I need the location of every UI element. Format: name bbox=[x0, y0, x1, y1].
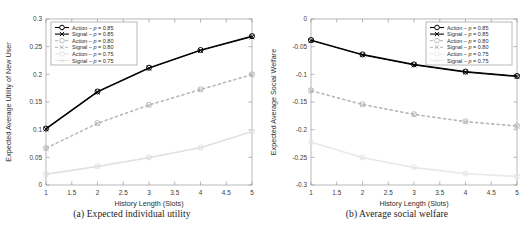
legend-label: Action – p = 0.75 bbox=[72, 51, 113, 57]
x-tick-label: 1 bbox=[44, 189, 48, 196]
y-tick-label: -0.1 bbox=[296, 71, 307, 78]
y-tick-label: 0.15 bbox=[30, 98, 43, 105]
x-tick-label: 2.5 bbox=[119, 189, 128, 196]
y-tick-label: 0.3 bbox=[33, 15, 42, 22]
legend-marker-circle bbox=[435, 38, 440, 43]
figure-two-panel-chart: 11.522.533.544.5500.050.10.150.20.250.3H… bbox=[0, 0, 529, 239]
x-tick-label: 3 bbox=[412, 189, 416, 196]
legend-label: Action – p = 0.80 bbox=[72, 38, 113, 44]
y-tick-label: 0.1 bbox=[33, 126, 42, 133]
x-tick-label: 3.5 bbox=[170, 189, 179, 196]
x-tick-label: 3 bbox=[147, 189, 151, 196]
panel-a: 11.522.533.544.5500.050.10.150.20.250.3H… bbox=[0, 0, 264, 239]
y-axis-title: Expected Average Social Welfare bbox=[269, 49, 278, 155]
legend-label: Action – p = 0.85 bbox=[447, 25, 488, 31]
series-line bbox=[311, 91, 517, 126]
x-tick-label: 2 bbox=[361, 189, 365, 196]
legend-label: Action – p = 0.85 bbox=[72, 25, 113, 31]
x-tick-label: 4.5 bbox=[222, 189, 231, 196]
y-tick-label: 0.2 bbox=[33, 71, 42, 78]
panel-b: 11.522.533.544.550-0.05-0.1-0.15-0.2-0.2… bbox=[265, 0, 529, 239]
x-axis-title: History Length (Slots) bbox=[379, 199, 448, 208]
legend-marker-circle bbox=[60, 25, 65, 30]
series-line bbox=[46, 132, 252, 175]
x-tick-label: 5 bbox=[250, 189, 254, 196]
caption-a: (a) Expected individual utility bbox=[0, 209, 264, 219]
y-tick-label: -0.2 bbox=[296, 126, 307, 133]
x-tick-label: 1.5 bbox=[67, 189, 76, 196]
plot-a: 11.522.533.544.5500.050.10.150.20.250.3H… bbox=[0, 0, 264, 210]
y-tick-label: -0.15 bbox=[292, 98, 307, 105]
series-line bbox=[46, 131, 252, 174]
x-axis-title: History Length (Slots) bbox=[114, 199, 183, 208]
legend-label: Signal – p = 0.85 bbox=[447, 31, 488, 37]
x-tick-label: 5 bbox=[515, 189, 519, 196]
x-tick-label: 2 bbox=[96, 189, 100, 196]
legend-label: Signal – p = 0.85 bbox=[72, 31, 113, 37]
y-tick-label: 0 bbox=[303, 15, 307, 22]
legend-label: Action – p = 0.75 bbox=[447, 51, 488, 57]
series-line bbox=[311, 142, 517, 176]
caption-b: (b) Average social welfare bbox=[265, 209, 529, 219]
legend-label: Signal – p = 0.75 bbox=[72, 58, 113, 64]
y-tick-label: -0.3 bbox=[296, 181, 307, 188]
y-tick-label: -0.25 bbox=[292, 154, 307, 161]
x-tick-label: 4 bbox=[199, 189, 203, 196]
x-tick-label: 2.5 bbox=[384, 189, 393, 196]
x-tick-label: 1.5 bbox=[332, 189, 341, 196]
legend-label: Signal – p = 0.75 bbox=[447, 58, 488, 64]
y-tick-label: 0.25 bbox=[30, 43, 43, 50]
series-line bbox=[46, 74, 252, 148]
y-tick-label: -0.05 bbox=[292, 43, 307, 50]
y-axis-title: Expected Average Utility of New User bbox=[4, 42, 13, 162]
x-tick-label: 1 bbox=[309, 189, 313, 196]
series-line bbox=[311, 142, 517, 176]
plot-b: 11.522.533.544.550-0.05-0.1-0.15-0.2-0.2… bbox=[265, 0, 529, 210]
legend-marker-circle bbox=[60, 38, 65, 43]
x-tick-label: 4.5 bbox=[487, 189, 496, 196]
legend: Action – p = 0.85Signal – p = 0.85Action… bbox=[426, 22, 512, 65]
legend-label: Action – p = 0.80 bbox=[447, 38, 488, 44]
legend-marker-circle bbox=[60, 52, 65, 57]
x-tick-label: 3.5 bbox=[435, 189, 444, 196]
series-line bbox=[311, 90, 517, 125]
y-tick-label: 0.05 bbox=[30, 154, 43, 161]
series-line bbox=[46, 75, 252, 149]
legend-marker-circle bbox=[435, 25, 440, 30]
x-tick-label: 4 bbox=[464, 189, 468, 196]
y-tick-label: 0 bbox=[38, 181, 42, 188]
legend-label: Signal – p = 0.80 bbox=[72, 44, 113, 50]
chart-svg-b: 11.522.533.544.550-0.05-0.1-0.15-0.2-0.2… bbox=[265, 0, 529, 210]
legend-marker-circle bbox=[435, 52, 440, 57]
legend-label: Signal – p = 0.80 bbox=[447, 44, 488, 50]
legend: Action – p = 0.85Signal – p = 0.85Action… bbox=[51, 22, 137, 65]
chart-svg-a: 11.522.533.544.5500.050.10.150.20.250.3H… bbox=[0, 0, 264, 210]
